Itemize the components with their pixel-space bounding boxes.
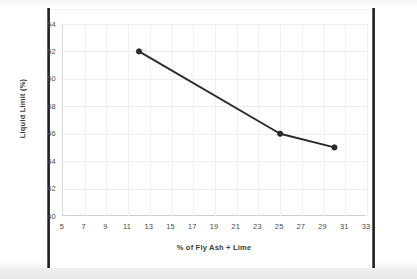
x-tick-31: 31	[332, 222, 356, 231]
x-tick-11: 11	[115, 222, 139, 231]
x-tick-5: 5	[50, 222, 74, 231]
y-tick-54: 54	[30, 20, 56, 29]
x-tick-33: 33	[354, 222, 378, 231]
data-point-marker	[136, 49, 141, 54]
data-series-liquid-limit	[63, 24, 367, 216]
x-tick-15: 15	[159, 222, 183, 231]
x-tick-17: 17	[180, 222, 204, 231]
x-tick-27: 27	[289, 222, 313, 231]
x-tick-13: 13	[137, 222, 161, 231]
y-tick-44: 44	[30, 157, 56, 166]
line-chart: 4042444648505254 57911131517192123252729…	[0, 0, 417, 279]
x-tick-25: 25	[267, 222, 291, 231]
y-tick-42: 42	[30, 184, 56, 193]
y-tick-40: 40	[30, 212, 56, 221]
x-tick-29: 29	[311, 222, 335, 231]
series-line	[139, 51, 334, 147]
x-tick-19: 19	[202, 222, 226, 231]
x-axis-title: % of Fly Ash + Lime	[62, 243, 366, 252]
y-axis-title: Liquid Limit (%)	[18, 49, 27, 169]
plot-area	[62, 24, 366, 216]
data-point-marker	[278, 131, 283, 136]
x-tick-23: 23	[245, 222, 269, 231]
y-tick-48: 48	[30, 102, 56, 111]
x-tick-9: 9	[93, 222, 117, 231]
x-tick-21: 21	[224, 222, 248, 231]
y-tick-50: 50	[30, 74, 56, 83]
x-tick-7: 7	[72, 222, 96, 231]
y-tick-52: 52	[30, 47, 56, 56]
data-point-marker	[332, 145, 337, 150]
gridline-x-33	[367, 24, 368, 216]
y-tick-46: 46	[30, 129, 56, 138]
